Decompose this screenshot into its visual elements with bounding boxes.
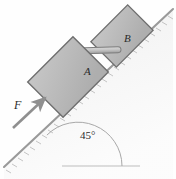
- physics-incline-diagram: A B F 45°: [0, 0, 176, 179]
- force-label: F: [14, 99, 21, 111]
- block-a-label: A: [84, 66, 91, 77]
- block-b-label: B: [124, 33, 131, 44]
- diagram-canvas: [0, 0, 176, 179]
- incline-angle-label: 45°: [80, 130, 95, 141]
